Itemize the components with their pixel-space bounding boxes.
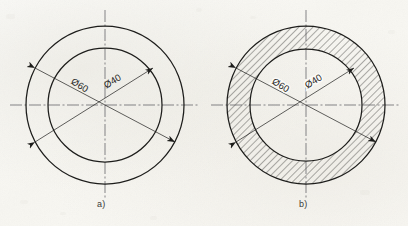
figure-a-caption: a) [97,199,106,209]
figure-a-group: Ø60 Ø40 [10,10,200,200]
technical-drawing-canvas: Ø60 Ø40 Ø60 Ø40 Ø60 Ø40 [0,0,408,226]
figure-b-caption: b) [299,199,308,209]
figure-b-group: Ø60 Ø40 Ø60 Ø40 [211,10,401,200]
